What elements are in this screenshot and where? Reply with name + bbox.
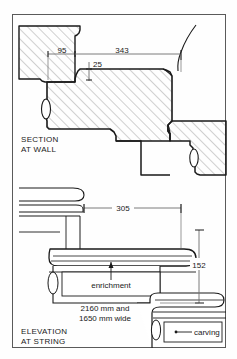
dimension-label-25: 25	[93, 60, 102, 69]
drawing-sheet: 95 343 25 SECTION AT WALL	[0, 0, 237, 359]
bead-profile-left	[42, 99, 51, 119]
section-title-line-1: SECTION	[21, 135, 59, 144]
note-line-1: 2160 mm and	[81, 304, 130, 313]
leader-dot-carving	[175, 331, 178, 334]
note-line-2: 1650 mm wide	[79, 314, 132, 323]
elevation-title-line-2: AT STRING	[21, 337, 66, 346]
dimension-label-305: 305	[116, 204, 130, 213]
section-title-line-2: AT WALL	[21, 145, 57, 154]
annotation-label-enrichment: enrichment	[91, 281, 131, 290]
bead-profile-elevation-left	[48, 272, 58, 294]
dimension-label-95: 95	[58, 46, 67, 55]
bead-profile-lower	[190, 149, 198, 167]
dimension-label-343: 343	[115, 46, 129, 55]
elevation-title-line-1: ELEVATION	[21, 327, 67, 336]
architectural-drawing: 95 343 25 SECTION AT WALL	[0, 0, 237, 359]
annotation-label-carving: carving	[194, 328, 220, 337]
bead-profile-elevation-lower	[151, 320, 160, 340]
dimension-label-152: 152	[192, 261, 206, 270]
